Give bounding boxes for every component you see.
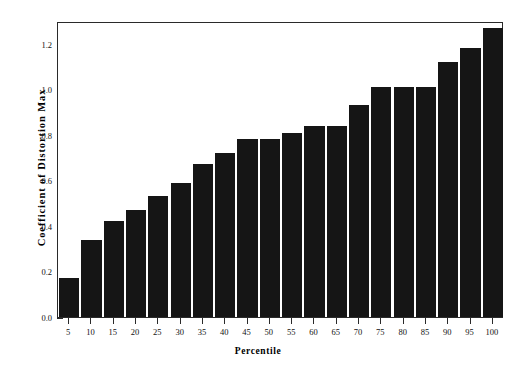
x-tick	[247, 318, 248, 324]
y-tick-label: 0.2	[22, 267, 52, 277]
x-tick-label: 30	[168, 327, 192, 337]
y-tick-label: 1.0	[22, 85, 52, 95]
bar	[214, 153, 236, 317]
x-tick	[336, 318, 337, 324]
x-tick	[492, 318, 493, 324]
x-tick	[291, 318, 292, 324]
x-tick	[157, 318, 158, 324]
x-tick-label: 90	[435, 327, 459, 337]
bar	[281, 133, 303, 317]
x-tick	[90, 318, 91, 324]
x-tick	[135, 318, 136, 324]
bar	[348, 105, 370, 317]
bar	[236, 139, 258, 317]
x-tick-label: 70	[346, 327, 370, 337]
x-tick-label: 100	[480, 327, 504, 337]
x-axis-title: Percentile	[0, 346, 516, 356]
x-tick-label: 20	[123, 327, 147, 337]
x-tick	[380, 318, 381, 324]
bar	[303, 126, 325, 317]
x-tick	[113, 318, 114, 324]
x-tick	[358, 318, 359, 324]
x-tick	[470, 318, 471, 324]
bar	[393, 87, 415, 317]
x-tick-label: 95	[458, 327, 482, 337]
bar	[415, 87, 437, 317]
y-tick-label: 0.6	[22, 176, 52, 186]
x-tick	[202, 318, 203, 324]
x-tick-label: 60	[301, 327, 325, 337]
bar	[58, 278, 80, 317]
x-tick	[425, 318, 426, 324]
x-tick	[447, 318, 448, 324]
bar	[259, 139, 281, 317]
x-tick-label: 10	[78, 327, 102, 337]
x-tick	[313, 318, 314, 324]
bar	[103, 221, 125, 317]
y-tick-label: 0.8	[22, 131, 52, 141]
bar	[370, 87, 392, 317]
x-tick	[180, 318, 181, 324]
x-tick	[403, 318, 404, 324]
y-tick-label: 0.0	[22, 313, 52, 323]
bar	[437, 62, 459, 317]
plot-area	[58, 23, 502, 317]
x-tick-label: 85	[413, 327, 437, 337]
bar	[192, 164, 214, 317]
x-tick-label: 80	[391, 327, 415, 337]
y-tick-label: 1.2	[22, 40, 52, 50]
y-tick-label: 0.4	[22, 222, 52, 232]
x-tick-label: 50	[257, 327, 281, 337]
x-tick-label: 75	[368, 327, 392, 337]
x-tick-label: 5	[56, 327, 80, 337]
bar-chart-figure: Coefficient of Distortion Max 0.00.20.40…	[0, 0, 516, 368]
bar	[125, 210, 147, 317]
x-tick-label: 35	[190, 327, 214, 337]
bar	[80, 240, 102, 317]
y-tick-major	[57, 318, 63, 319]
x-tick-label: 45	[235, 327, 259, 337]
x-tick-label: 40	[212, 327, 236, 337]
bar	[147, 196, 169, 317]
x-tick	[68, 318, 69, 324]
plot-frame	[57, 22, 503, 318]
x-tick	[269, 318, 270, 324]
bar	[170, 183, 192, 317]
x-tick-label: 25	[145, 327, 169, 337]
bar	[482, 28, 504, 317]
bar	[326, 126, 348, 317]
x-tick-label: 65	[324, 327, 348, 337]
x-tick-label: 15	[101, 327, 125, 337]
y-axis-title: Coefficient of Distortion Max	[36, 33, 47, 303]
x-tick	[224, 318, 225, 324]
bar	[459, 48, 481, 317]
x-tick-label: 55	[279, 327, 303, 337]
